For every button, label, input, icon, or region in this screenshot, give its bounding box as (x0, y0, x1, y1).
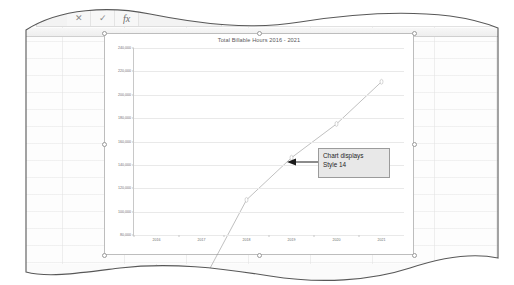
chart-data-point[interactable] (380, 79, 383, 84)
x-axis-tickmark (314, 235, 315, 237)
chart-title: Total Billable Hours 2016 - 2021 (105, 37, 413, 43)
y-axis-tick-label: 80,000 (120, 233, 131, 237)
x-axis-tick-label: 2019 (288, 238, 296, 242)
y-axis-tickmark (132, 48, 134, 49)
chart-gridline (134, 188, 404, 189)
resize-handle-top-right[interactable] (412, 31, 417, 36)
chart-data-point[interactable] (155, 265, 158, 270)
y-axis-tick-label: 200,000 (118, 93, 131, 97)
chart-data-point[interactable] (335, 122, 338, 127)
chart-plot-area: 240,000220,000200,000180,000160,000140,0… (133, 48, 404, 236)
resize-handle-top-left[interactable] (102, 31, 107, 36)
y-axis-tickmark (132, 211, 134, 212)
y-axis-tickmark (132, 118, 134, 119)
y-axis-tickmark (132, 71, 134, 72)
y-axis-tickmark (132, 94, 134, 95)
chart-data-point[interactable] (245, 197, 248, 202)
chart-gridline (134, 71, 404, 72)
chart-line-path (157, 82, 382, 285)
enter-icon[interactable]: ✓ (91, 10, 115, 26)
resize-handle-top-center[interactable] (257, 31, 262, 36)
x-axis-tick-label: 2017 (198, 238, 206, 242)
x-axis-tick-label: 2020 (333, 238, 341, 242)
formula-bar: ✕ ✓ fx (36, 9, 222, 27)
callout-line-1: Chart displays (323, 152, 385, 161)
callout-line-2: Style 14 (323, 161, 385, 170)
screenshot-root: ✕ ✓ fx Total Billable Hours 2016 - 2021 … (0, 0, 514, 285)
y-axis-tick-label: 100,000 (118, 210, 131, 214)
resize-handle-bottom-left[interactable] (102, 253, 107, 258)
x-axis-tick-label: 2016 (153, 238, 161, 242)
y-axis-tickmark (132, 141, 134, 142)
x-axis-tickmark (134, 235, 135, 237)
y-axis-tick-label: 220,000 (118, 69, 131, 73)
y-axis-tick-label: 180,000 (118, 116, 131, 120)
chart-gridline (134, 142, 404, 143)
callout-arrow-icon (286, 156, 322, 168)
x-axis-tickmark (269, 235, 270, 237)
x-axis-tick-label: 2021 (378, 238, 386, 242)
chart-gridline (134, 48, 404, 49)
resize-handle-bottom-center[interactable] (257, 253, 262, 258)
y-axis-tickmark (132, 188, 134, 189)
x-axis-tick-label: 2018 (243, 238, 251, 242)
resize-handle-middle-left[interactable] (102, 142, 107, 147)
x-axis-tickmark (359, 235, 360, 237)
chart-object[interactable]: Total Billable Hours 2016 - 2021 240,000… (104, 33, 414, 255)
chart-gridline (134, 95, 404, 96)
callout-textbox[interactable]: Chart displays Style 14 (318, 148, 390, 178)
y-axis-tick-label: 240,000 (118, 46, 131, 50)
y-axis-tick-label: 120,000 (118, 186, 131, 190)
x-axis-tickmark (224, 235, 225, 237)
resize-handle-bottom-right[interactable] (412, 253, 417, 258)
cancel-icon[interactable]: ✕ (67, 10, 91, 26)
chart-gridline (134, 212, 404, 213)
y-axis-tick-label: 140,000 (118, 163, 131, 167)
resize-handle-middle-right[interactable] (412, 142, 417, 147)
insert-function-icon[interactable]: fx (115, 10, 139, 26)
chart-gridline (134, 118, 404, 119)
worksheet-surface: ✕ ✓ fx Total Billable Hours 2016 - 2021 … (0, 0, 514, 285)
y-axis-tick-label: 160,000 (118, 140, 131, 144)
sheet-tab-bar: ◀ 6-Year Billable HoursAnalyze figures ▤ (0, 262, 514, 285)
x-axis-tickmark (179, 235, 180, 237)
y-axis-tickmark (132, 164, 134, 165)
